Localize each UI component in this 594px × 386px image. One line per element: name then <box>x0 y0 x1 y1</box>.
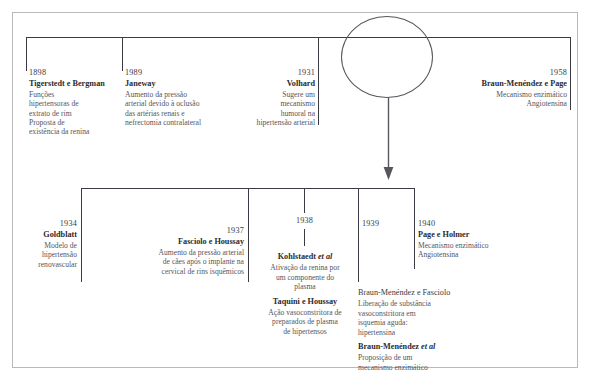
entry-year: 1931 <box>200 68 315 78</box>
highlight-ellipse-icon <box>341 16 433 98</box>
entry-year: 1940 <box>418 219 543 229</box>
top-tick-1958 <box>570 37 571 110</box>
sub-author-taquini: Taquini e Houssay <box>244 297 366 307</box>
top-tick-1989 <box>122 37 123 71</box>
entry-description: Mecanismo enzimáticoAngiotensina <box>430 90 567 109</box>
entry-description: Mecanismo enzimáticoAngiotensina <box>418 241 543 260</box>
top-timeline-axis <box>26 37 571 38</box>
entry-year: 1939 <box>362 219 407 229</box>
entry-author: Fasciolo e Houssay <box>108 237 244 247</box>
entry-description: Funçõeshipertensoras deextrato de rimPro… <box>29 90 119 136</box>
sub-description: Proposição de ummecanismo enzimático <box>358 353 480 372</box>
entry-year: 1937 <box>108 226 244 236</box>
entry-description: Sugere ummecanismohumoral nahipertensão … <box>200 90 315 127</box>
entry-description: Modelo dehipertensãorenovascular <box>8 241 77 269</box>
sub-author-braun-fasciolo: Braun-Menéndez e Fasciolo <box>358 288 480 298</box>
entry-author: Goldblatt <box>8 230 77 240</box>
timeline-entry-1938: 1938 <box>282 216 327 227</box>
bottom-tick-1938-upper <box>304 188 305 213</box>
sub-author-braun-etal: Braun-Menéndez et al <box>358 342 480 352</box>
entry-author: Page e Holmer <box>418 230 543 240</box>
timeline-entry-1958: 1958 Braun-Menéndez e Page Mecanismo enz… <box>430 68 567 109</box>
entry-year: 1938 <box>282 216 327 226</box>
sub-description: Liberação de substânciavasoconstritora e… <box>358 299 480 337</box>
timeline-entry-1931: 1931 Volhard Sugere ummecanismohumoral n… <box>200 68 315 127</box>
entry-author: Tigerstedt e Bergman <box>29 79 119 89</box>
timeline-entry-1898: 1898 Tigerstedt e Bergman Funçõeshiperte… <box>29 68 119 136</box>
bottom-tick-1940 <box>414 188 415 269</box>
sub-description: Ativação da renina porum componente dopl… <box>244 263 366 291</box>
downward-arrow-icon <box>378 98 400 182</box>
sub-author-kohlstaedt: Kohlstaedt et al <box>244 252 366 262</box>
sub-block-1938: Kohlstaedt et al Ativação da renina poru… <box>244 252 366 341</box>
timeline-diagram: 1898 Tigerstedt e Bergman Funçõeshiperte… <box>0 0 594 386</box>
entry-year: 1898 <box>29 68 119 78</box>
entry-year: 1934 <box>8 219 77 229</box>
timeline-entry-1940: 1940 Page e Holmer Mecanismo enzimáticoA… <box>418 219 543 260</box>
sub-block-1939: Braun-Menéndez e Fasciolo Liberação de s… <box>358 288 480 377</box>
sub-author-etal: et al <box>318 252 332 261</box>
timeline-entry-1934: 1934 Goldblatt Modelo dehipertensãorenov… <box>8 219 77 269</box>
entry-year: 1958 <box>430 68 567 78</box>
sub-author-name: Braun-Menéndez <box>358 342 421 351</box>
bottom-tick-1934 <box>81 188 82 282</box>
entry-description: Aumento da pressão arterialde cães após … <box>108 248 244 276</box>
top-tick-1931 <box>318 37 319 125</box>
timeline-entry-1939: 1939 <box>362 219 407 230</box>
timeline-entry-1937: 1937 Fasciolo e Houssay Aumento da press… <box>108 226 244 276</box>
bottom-tick-1938-lower <box>304 229 305 246</box>
sub-description: Ação vasoconstritora depreparados de pla… <box>244 308 366 336</box>
entry-author: Braun-Menéndez e Page <box>430 79 567 89</box>
sub-author-name: Kohlstaedt <box>278 252 318 261</box>
sub-author-etal: et al <box>421 342 435 351</box>
entry-author: Volhard <box>200 79 315 89</box>
top-tick-1898 <box>26 37 27 71</box>
